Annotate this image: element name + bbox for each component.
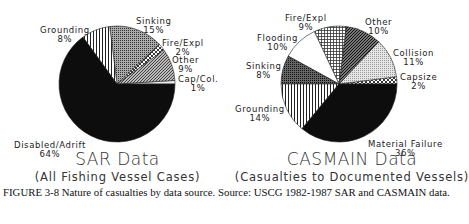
sar-subtitle: (All Fishing Vessel Cases) [0,170,235,184]
casmain-title: CASMAIN Data [235,149,469,169]
label-pct: 8% [246,71,281,80]
casmain-label-grounding: Grounding 14% [235,105,285,123]
sar-label-grounding: Grounding 8% [40,26,90,44]
label-pct: 9% [172,65,199,74]
casmain-subtitle: (Casualties to Documented Vessels) [230,170,469,184]
casmain-label-sinking: Sinking 8% [246,62,281,80]
casmain-label-collision: Collision 11% [393,49,434,67]
casmain-label-capsize: Capsize 2% [400,73,437,91]
casmain-label-fire: Fire/Expl 9% [285,14,327,32]
label-pct: 10% [365,27,392,36]
casmain-label-flooding: Flooding 10% [257,34,298,52]
casmain-pie [281,26,397,142]
sar-title: SAR Data [0,149,235,169]
label-pct: 8% [40,35,90,44]
figure-caption: FIGURE 3-8 Nature of casualties by data … [3,186,465,199]
label-pct: 2% [400,82,437,91]
casmain-label-other: Other 10% [365,18,392,36]
sar-label-capcol: Cap/Col. 1% [178,75,218,93]
sar-label-other: Other 9% [172,56,199,74]
label-pct: 10% [257,43,298,52]
sar-label-sinking: Sinking 15% [136,17,171,35]
label-pct: 1% [178,84,218,93]
label-pct: 11% [393,58,434,67]
label-pct: 14% [235,114,285,123]
label-pct: 9% [285,23,327,32]
label-pct: 15% [136,26,171,35]
